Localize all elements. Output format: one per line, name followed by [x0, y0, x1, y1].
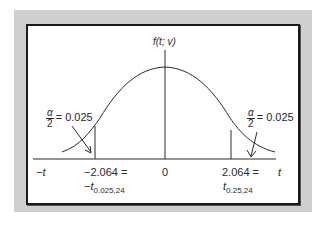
left-tail-arrow	[72, 126, 91, 152]
right-tail-annotation: α 2 = 0.025	[247, 108, 294, 129]
left-tail-annotation: α 2 = 0.025	[46, 108, 93, 129]
density-curve	[62, 67, 275, 152]
left-cutoff-value: −2.064 =	[84, 167, 127, 178]
zero-tick-label: 0	[162, 167, 168, 178]
right-critical-symbol: t0.25,24	[223, 181, 253, 192]
right-cutoff-value: 2.064 =	[222, 167, 259, 178]
neg-t-label: −t	[36, 167, 45, 178]
y-axis-label: f(t; v)	[153, 37, 176, 47]
left-alpha-fraction: α 2	[46, 108, 54, 129]
right-alpha-fraction: α 2	[247, 108, 255, 129]
left-critical-symbol: −t0.025,24	[84, 181, 125, 192]
t-axis-label: t	[278, 167, 281, 178]
